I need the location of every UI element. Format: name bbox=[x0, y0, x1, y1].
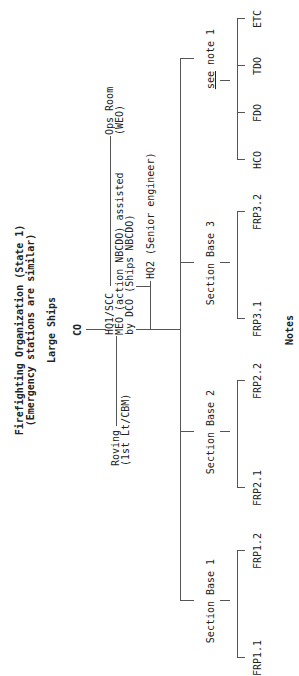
node-frp1-1: FRP1.1 bbox=[252, 640, 263, 676]
node-co: CO bbox=[72, 324, 83, 336]
drop-frp3-2 bbox=[237, 211, 245, 212]
drop-section-base-1 bbox=[180, 600, 194, 601]
drop-frp1-1 bbox=[237, 657, 245, 658]
drop-fdo bbox=[237, 112, 245, 113]
node-frp1-2: FRP1.2 bbox=[252, 533, 263, 569]
bracket-section-base-2 bbox=[237, 381, 238, 488]
connector-co-hq1 bbox=[86, 329, 106, 330]
node-section-base-1: Section Base 1 bbox=[205, 559, 216, 643]
node-ops-room-weo: (WEO) bbox=[114, 105, 125, 135]
node-hq2: HQ2 (Senior engineer) bbox=[145, 153, 156, 279]
drop-note-branch bbox=[180, 58, 194, 59]
stem-section-base-3 bbox=[220, 262, 230, 263]
drop-frp2-1 bbox=[237, 487, 245, 488]
drop-section-base-3 bbox=[180, 262, 194, 263]
node-hco: HCO bbox=[252, 151, 263, 169]
notes-heading: Notes bbox=[284, 315, 295, 345]
connector-hq2-stem bbox=[136, 286, 150, 287]
node-frp3-1: FRP3.1 bbox=[252, 301, 263, 337]
connector-hq2-link bbox=[150, 286, 151, 330]
node-section-base-2: Section Base 2 bbox=[205, 390, 216, 474]
bracket-note-branch bbox=[237, 19, 238, 160]
node-frp2-2: FRP2.2 bbox=[252, 363, 263, 399]
drop-section-base-2 bbox=[180, 431, 194, 432]
node-section-base-3: Section Base 3 bbox=[205, 221, 216, 305]
see-label: see bbox=[205, 71, 216, 89]
main-bus-line bbox=[180, 59, 181, 601]
stem-section-base-1 bbox=[220, 600, 230, 601]
node-see-note-1: see note 1 bbox=[205, 29, 216, 89]
node-fdo: FDO bbox=[252, 104, 263, 122]
bracket-section-base-1 bbox=[237, 551, 238, 658]
node-etc: ETC bbox=[252, 10, 263, 28]
node-hq1-dco: by DCO (Ships NBCDO) bbox=[124, 215, 135, 335]
node-roving-officer: (1st Lt/CBM) bbox=[120, 394, 131, 466]
node-frp3-2: FRP3.2 bbox=[252, 194, 263, 230]
chart-title-line2: (Emergency stations are similar) bbox=[25, 234, 36, 427]
chart-title-line1: Firefighting Organization (State 1) bbox=[14, 225, 25, 436]
connector-hq1-opsroom bbox=[110, 136, 111, 286]
drop-etc bbox=[237, 18, 245, 19]
connector-hq1-bus bbox=[136, 329, 180, 330]
drop-frp1-2 bbox=[237, 550, 245, 551]
connector-hq2-tick bbox=[150, 281, 151, 287]
bracket-section-base-3 bbox=[237, 212, 238, 319]
connector-roving-hq1 bbox=[116, 336, 117, 426]
drop-frp3-1 bbox=[237, 318, 245, 319]
drop-frp2-2 bbox=[237, 380, 245, 381]
drop-hco bbox=[237, 159, 245, 160]
node-frp2-1: FRP2.1 bbox=[252, 470, 263, 506]
node-tdo: TDO bbox=[252, 57, 263, 75]
stem-note-branch bbox=[220, 80, 230, 81]
note-1-label: note 1 bbox=[205, 29, 216, 71]
chart-subtitle: Large Ships bbox=[46, 297, 57, 363]
stem-section-base-2 bbox=[220, 431, 230, 432]
drop-tdo bbox=[237, 65, 245, 66]
